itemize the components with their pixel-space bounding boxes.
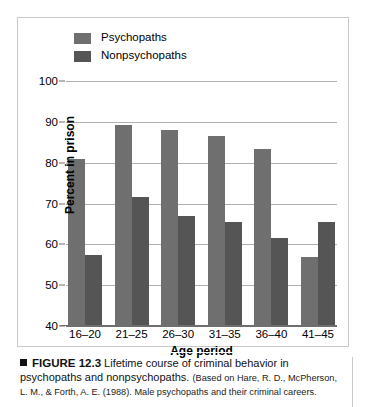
bar-group xyxy=(252,81,290,326)
bar-psychopaths-41-45 xyxy=(301,257,318,326)
bar-nonpsychopaths-41-45 xyxy=(318,222,335,326)
y-tick-label: 70 xyxy=(45,198,58,210)
y-tick-label: 50 xyxy=(45,279,58,291)
y-axis-title: Percent in prison xyxy=(63,105,77,225)
bar-group xyxy=(299,81,337,326)
bar-nonpsychopaths-16-20 xyxy=(85,255,102,326)
legend-item-nonpsychopaths: Nonpsychopaths xyxy=(74,47,187,65)
bar-group xyxy=(206,81,244,326)
bar-group xyxy=(159,81,197,326)
bar-nonpsychopaths-26-30 xyxy=(178,216,195,326)
x-tick-label: 31–35 xyxy=(206,328,244,340)
legend-label-psychopaths: Psychopaths xyxy=(101,32,167,44)
page-rule xyxy=(352,357,353,407)
y-tick-label: 80 xyxy=(45,157,58,169)
bar-nonpsychopaths-31-35 xyxy=(225,222,242,326)
chart-legend: Psychopaths Nonpsychopaths xyxy=(74,29,187,65)
y-tick-mark xyxy=(59,244,65,245)
x-axis-title: Age period xyxy=(66,344,337,358)
x-tick-label: 41–45 xyxy=(299,328,337,340)
x-tick-label: 26–30 xyxy=(159,328,197,340)
y-tick-mark xyxy=(59,285,65,286)
x-tick-label: 36–40 xyxy=(252,328,290,340)
bar-groups xyxy=(66,81,337,326)
bar-psychopaths-21-25 xyxy=(115,125,132,326)
bar-psychopaths-36-40 xyxy=(254,149,271,326)
chart-panel: Psychopaths Nonpsychopaths 4050607080901… xyxy=(17,17,349,347)
figure-container: Psychopaths Nonpsychopaths 4050607080901… xyxy=(0,0,366,407)
figure-caption: FIGURE 12.3 Lifetime course of criminal … xyxy=(20,357,346,400)
caption-divider xyxy=(20,352,346,353)
legend-swatch-nonpsychopaths xyxy=(74,51,91,62)
x-tick-label: 16–20 xyxy=(66,328,104,340)
legend-item-psychopaths: Psychopaths xyxy=(74,29,187,47)
x-tick-label: 21–25 xyxy=(113,328,151,340)
square-bullet-icon xyxy=(20,359,27,366)
bar-nonpsychopaths-21-25 xyxy=(132,197,149,326)
bar-group xyxy=(113,81,151,326)
y-tick-label: 40 xyxy=(45,320,58,332)
y-tick-label: 100 xyxy=(39,75,58,87)
x-axis-line xyxy=(60,325,337,326)
legend-swatch-psychopaths xyxy=(74,33,91,44)
y-tick-label: 90 xyxy=(45,116,58,128)
gridline xyxy=(66,326,337,327)
plot-area: 405060708090100 xyxy=(66,81,337,326)
bar-nonpsychopaths-36-40 xyxy=(271,238,288,326)
legend-label-nonpsychopaths: Nonpsychopaths xyxy=(101,50,187,62)
bar-psychopaths-26-30 xyxy=(161,130,178,326)
x-tick-labels: 16–2021–2526–3031–3536–4041–45 xyxy=(66,328,337,340)
bar-psychopaths-31-35 xyxy=(208,136,225,326)
figure-number: FIGURE 12.3 xyxy=(32,357,101,369)
y-tick-mark xyxy=(59,81,65,82)
y-tick-label: 60 xyxy=(45,238,58,250)
